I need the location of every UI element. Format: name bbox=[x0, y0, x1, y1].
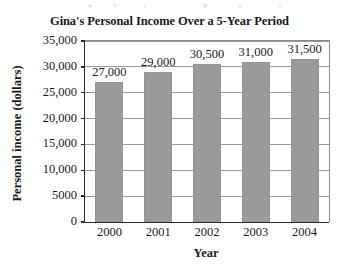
y-axis-tick-label: 25,000 bbox=[3, 85, 77, 100]
x-axis-tick-label: 2004 bbox=[275, 225, 335, 240]
bar bbox=[242, 62, 270, 222]
chart-figure: Gina's Personal Income Over a 5-Year Per… bbox=[0, 0, 339, 270]
x-axis-title: Year bbox=[84, 246, 328, 261]
y-axis-tick-label: 5000 bbox=[3, 188, 77, 203]
y-axis-tick-label: 35,000 bbox=[3, 33, 77, 48]
y-axis-tick-label: 0 bbox=[3, 214, 77, 229]
y-axis-tick bbox=[81, 118, 85, 119]
bar bbox=[291, 59, 319, 222]
y-axis-tick-label: 30,000 bbox=[3, 59, 77, 74]
y-axis-tick bbox=[81, 195, 85, 196]
y-axis-tick-label: 20,000 bbox=[3, 111, 77, 126]
chart-title: Gina's Personal Income Over a 5-Year Per… bbox=[0, 14, 339, 29]
y-axis-tick bbox=[81, 92, 85, 93]
bar bbox=[193, 64, 221, 222]
y-axis-tick bbox=[81, 40, 85, 41]
plot-frame-right bbox=[329, 40, 330, 222]
y-axis-tick bbox=[81, 170, 85, 171]
y-axis-tick-label: 15,000 bbox=[3, 136, 77, 151]
y-axis-tick-label: 10,000 bbox=[3, 162, 77, 177]
bar bbox=[95, 82, 123, 222]
bar bbox=[144, 72, 172, 222]
bar-value-label: 31,500 bbox=[275, 42, 335, 57]
plot-area: 0500010,00015,00020,00025,00030,00035,00… bbox=[84, 41, 329, 223]
y-axis-tick bbox=[81, 144, 85, 145]
scan-artifact bbox=[60, 2, 310, 10]
y-axis-tick bbox=[81, 221, 85, 222]
